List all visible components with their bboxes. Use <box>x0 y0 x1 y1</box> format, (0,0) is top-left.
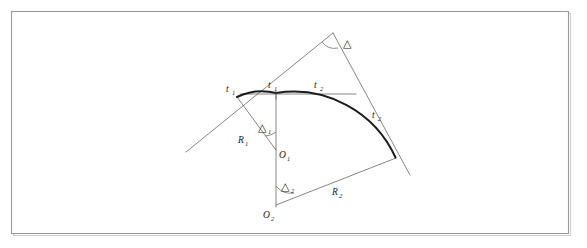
label-delta-first-base: △ <box>258 121 267 133</box>
label-delta-second-base: △ <box>281 180 290 192</box>
label-pc-point-base: t <box>226 84 229 94</box>
label-center-first-base: O <box>279 150 286 160</box>
label-radius-second-base: R <box>331 187 338 197</box>
label-center-first-sub: 1 <box>287 155 290 162</box>
label-pc-point-sub: 1 <box>232 89 235 96</box>
label-delta-total-base: △ <box>343 37 352 49</box>
label-tangent-second-base: t <box>314 80 317 90</box>
label-tangent-first-sub: 1 <box>274 85 277 92</box>
label-radius-first-base: R <box>237 135 244 145</box>
label-radius-first-sub: 1 <box>245 140 248 147</box>
label-tangent-right-base: t <box>372 110 375 120</box>
compound-curve-diagram: t 1 t 1 t 2 t 2 R 1 R 2 O <box>0 0 587 248</box>
label-center-second-base: O <box>263 210 270 220</box>
label-delta-total: △ <box>343 37 352 49</box>
figure-root: t 1 t 1 t 2 t 2 R 1 R 2 O <box>0 0 587 248</box>
label-tangent-first-base: t <box>268 80 271 90</box>
label-delta-first-sub: 1 <box>268 128 271 135</box>
diagram-frame <box>12 12 569 234</box>
